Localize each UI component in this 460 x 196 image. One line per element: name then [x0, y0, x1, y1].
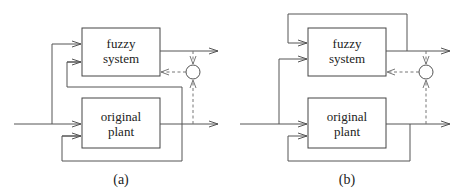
caption-a: (a): [113, 172, 129, 188]
diagram-b: fuzzy system original plant (b): [240, 14, 450, 188]
diagram-a: fuzzy system original plant (a): [14, 28, 218, 188]
comparator-circle: [186, 65, 200, 79]
input-branch-to-fuzzy: [279, 59, 307, 124]
plant-label-line2: plant: [108, 124, 134, 139]
fuzzy-label-line1: fuzzy: [333, 36, 362, 51]
plant-label-line1: original: [327, 109, 368, 124]
fuzzy-label-line2: system: [329, 51, 365, 66]
comparator-circle: [419, 65, 433, 79]
fuzzy-label-line1: fuzzy: [107, 36, 136, 51]
plant-label-line1: original: [101, 109, 142, 124]
caption-b: (b): [339, 172, 356, 188]
fuzzy-label-line2: system: [103, 51, 139, 66]
fuzzy-identification-diagrams: fuzzy system original plant (a) fuzzy sy…: [0, 0, 460, 196]
plant-label-line2: plant: [334, 124, 360, 139]
